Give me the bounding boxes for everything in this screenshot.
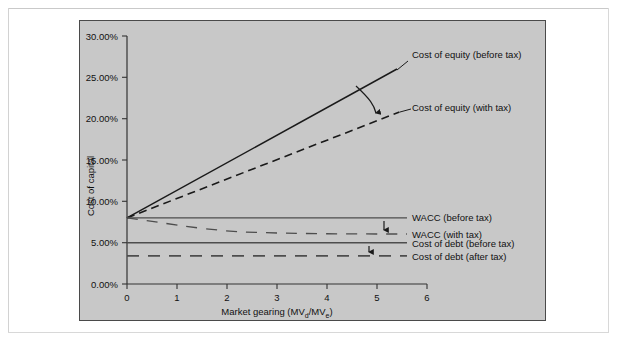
x-tick-label-6: 6 — [424, 292, 429, 303]
x-tick-label-5: 5 — [374, 292, 379, 303]
series-label-cost-of-equity-with-tax: Cost of equity (with tax) — [412, 102, 511, 113]
y-axis-title: Cost of capital — [85, 156, 96, 216]
series-label-cost-of-debt-before-tax: Cost of debt (before tax) — [412, 238, 514, 249]
page-top-rule — [8, 8, 609, 9]
y-tick-label-30: 30.00% — [86, 31, 119, 42]
y-tick-label-20: 20.00% — [86, 113, 119, 124]
series-label-cost-of-equity-before-tax: Cost of equity (before tax) — [412, 49, 521, 60]
x-tick-label-1: 1 — [174, 292, 179, 303]
leader-line-cost-of-equity-with-tax — [400, 109, 411, 112]
x-axis-title: Market gearing (MVd/MVe) — [221, 306, 332, 319]
x-axis-title-main: Market gearing (MV — [221, 306, 305, 317]
series-label-wacc-before-tax: WACC (before tax) — [412, 212, 492, 223]
page-bottom-rule — [8, 332, 609, 333]
y-axis-ticks — [122, 36, 127, 284]
series-line-cost-of-equity-with-tax — [127, 112, 400, 218]
leader-line-cost-of-equity-before-tax — [397, 61, 408, 70]
cost-of-capital-line-chart: 30.00% 25.00% 20.00% 15.00% 10.00% 5.00%… — [80, 21, 545, 320]
y-tick-label-5: 5.00% — [91, 237, 118, 248]
x-tick-label-4: 4 — [324, 292, 329, 303]
x-tick-label-2: 2 — [224, 292, 229, 303]
x-axis-title-mid: /MV — [309, 306, 327, 317]
page-canvas: 30.00% 25.00% 20.00% 15.00% 10.00% 5.00%… — [0, 0, 617, 348]
page-left-rule — [8, 8, 9, 333]
chart-panel: 30.00% 25.00% 20.00% 15.00% 10.00% 5.00%… — [79, 20, 546, 321]
x-tick-label-3: 3 — [274, 292, 279, 303]
page-right-rule — [608, 8, 609, 333]
x-axis-ticks — [127, 284, 427, 289]
series-line-wacc-with-tax — [127, 218, 407, 234]
x-axis-title-end: ) — [329, 306, 332, 317]
y-tick-label-25: 25.00% — [86, 72, 119, 83]
series-line-cost-of-equity-before-tax — [127, 69, 397, 218]
series-label-cost-of-debt-after-tax: Cost of debt (after tax) — [412, 251, 507, 262]
y-tick-label-0: 0.00% — [91, 279, 118, 290]
x-tick-label-0: 0 — [124, 292, 129, 303]
